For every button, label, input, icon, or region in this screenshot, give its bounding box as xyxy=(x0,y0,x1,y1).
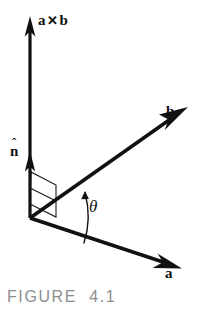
hat-accent-icon: ˆ xyxy=(12,136,16,149)
label-vector-a: a xyxy=(165,266,173,281)
vector-b-arrow xyxy=(30,107,188,218)
cross-product-icon: ✕ xyxy=(46,14,60,27)
vector-a-arrow xyxy=(30,218,182,269)
n-hat-stack: ˆn xyxy=(10,144,18,159)
label-cross-product: a✕b xyxy=(38,13,68,28)
label-unit-normal: ˆn xyxy=(10,144,18,159)
label-vector-b: b xyxy=(166,104,174,119)
label-cross-b: b xyxy=(60,12,69,28)
figure-caption: FIGURE 4.1 xyxy=(7,288,116,306)
figure-container: a✕b ˆn b a θ FIGURE 4.1 xyxy=(0,0,199,314)
label-angle-theta: θ xyxy=(89,198,97,215)
label-cross-a: a xyxy=(38,12,46,28)
vector-cross-product-arrow xyxy=(25,16,36,218)
